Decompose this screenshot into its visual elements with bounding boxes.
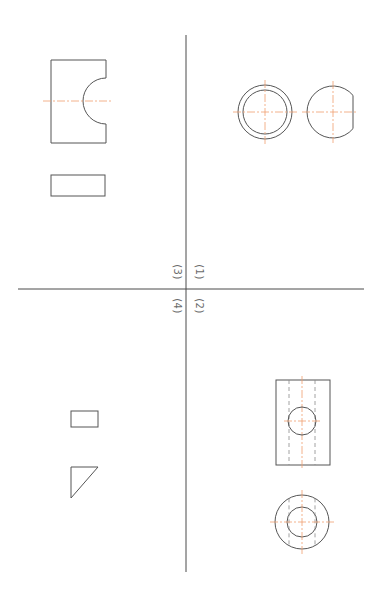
block-top-view	[51, 175, 105, 196]
quadrant-1-views	[233, 80, 357, 144]
quadrant-3-views	[43, 60, 112, 196]
triangle-view	[71, 467, 98, 498]
notched-block-front-view	[51, 60, 106, 143]
quadrant-label-1: (1)	[194, 264, 205, 280]
quadrant-4-views	[71, 411, 98, 498]
small-rectangle-view	[71, 411, 98, 427]
quadrant-label-2: (2)	[194, 298, 205, 314]
quadrant-label-4: (4)	[172, 298, 183, 314]
bored-block-front-view	[276, 380, 330, 465]
quadrant-label-3: (3)	[172, 264, 183, 280]
drawing-canvas	[0, 0, 385, 593]
quadrant-2-views	[270, 376, 334, 554]
